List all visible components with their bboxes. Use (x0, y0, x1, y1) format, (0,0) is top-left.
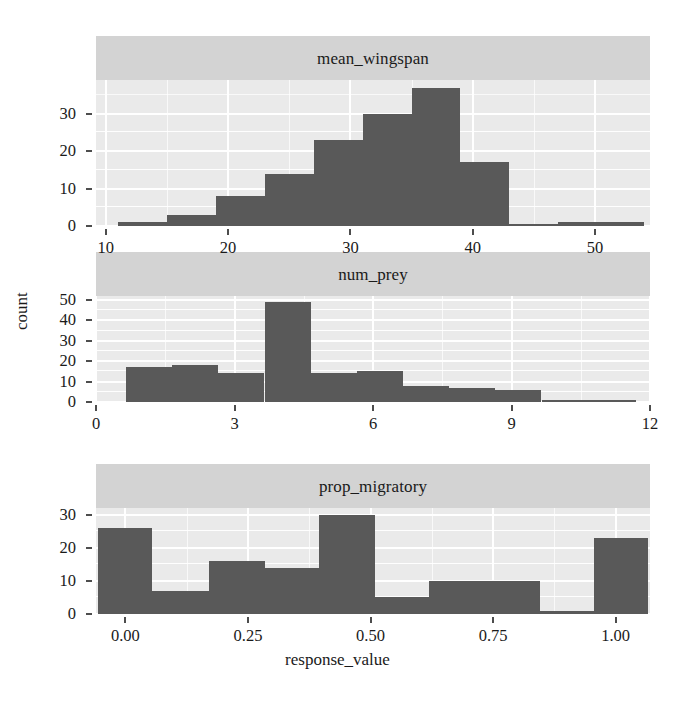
y-axis-tick-label: 40 (30, 312, 76, 329)
histogram-bar (486, 581, 540, 614)
histogram-bars-2 (96, 508, 650, 614)
plot-area-2 (96, 508, 650, 614)
histogram-bar (216, 196, 265, 226)
y-axis-tick-label: 20 (30, 143, 76, 160)
x-axis-tick-mark (370, 617, 372, 623)
histogram-bar (265, 568, 319, 614)
facet-panel-mean-wingspan: mean_wingspan (0, 36, 675, 226)
x-axis-tick-mark (372, 405, 374, 411)
y-axis-tick-mark (86, 360, 92, 362)
histogram-bar (495, 390, 541, 402)
y-axis-tick-mark (86, 381, 92, 383)
x-axis-tick-label: 6 (369, 416, 377, 433)
facet-panel-num-prey: num_prey (0, 252, 675, 402)
histogram-bar (311, 373, 357, 402)
y-axis-title: count (12, 292, 32, 330)
x-axis-tick-mark (511, 405, 513, 411)
facet-strip-header-2: prop_migratory (96, 464, 650, 508)
x-axis-tick-mark (124, 617, 126, 623)
histogram-bar (209, 561, 265, 614)
y-axis-tick-mark (86, 401, 92, 403)
x-axis-tick-label: 0.50 (356, 628, 385, 645)
x-axis-tick-mark (105, 229, 107, 235)
x-axis-tick-mark (247, 617, 249, 623)
y-axis-tick-label: 10 (30, 573, 76, 590)
facet-title-0: mean_wingspan (317, 50, 429, 67)
histogram-bar (314, 140, 363, 226)
y-axis-tick-label: 10 (30, 181, 76, 198)
histogram-bar (265, 174, 314, 226)
x-axis-tick-label: 1.00 (601, 628, 630, 645)
x-axis-tick-mark (594, 229, 596, 235)
y-axis-tick-mark (86, 225, 92, 227)
histogram-bar (429, 581, 485, 614)
x-axis-tick-mark (472, 229, 474, 235)
y-axis-tick-mark (86, 113, 92, 115)
histogram-bar (218, 373, 264, 402)
histogram-bar (265, 302, 311, 402)
histogram-bar (558, 222, 607, 226)
x-axis-tick-label: 50 (587, 240, 604, 257)
x-axis-tick-label: 30 (342, 240, 359, 257)
y-axis-tick-mark (86, 514, 92, 516)
facet-strip-header-1: num_prey (96, 252, 650, 296)
histogram-bar (118, 222, 167, 226)
plot-area-1 (96, 296, 650, 402)
histogram-bar (167, 215, 216, 226)
y-axis-tick-mark (86, 580, 92, 582)
facet-strip-header-0: mean_wingspan (96, 36, 650, 80)
histogram-bar (126, 367, 172, 402)
x-axis-tick-mark (95, 405, 97, 411)
histogram-bar (594, 538, 648, 614)
plot-area-0 (96, 80, 650, 226)
x-axis-tick-label: 0.00 (111, 628, 140, 645)
histogram-bars-0 (96, 80, 650, 226)
histogram-figure: mean_wingspan num_prey prop_migratory co… (0, 0, 675, 711)
y-axis-tick-label: 10 (30, 374, 76, 391)
histogram-bar (152, 591, 208, 614)
x-axis-tick-mark (349, 229, 351, 235)
x-axis-tick-label: 0.75 (479, 628, 508, 645)
histogram-bar (357, 371, 403, 402)
histogram-bar (542, 400, 588, 402)
histogram-bar (449, 388, 495, 402)
x-axis-tick-label: 20 (220, 240, 237, 257)
y-axis-tick-label: 0 (30, 218, 76, 235)
histogram-bar (172, 365, 218, 402)
x-axis-tick-label: 0 (92, 416, 100, 433)
x-axis-tick-mark (649, 405, 651, 411)
histogram-bar (98, 528, 152, 614)
x-axis-tick-label: 3 (230, 416, 238, 433)
y-axis-tick-label: 0 (30, 394, 76, 411)
x-axis-tick-mark (234, 405, 236, 411)
x-axis-tick-label: 40 (464, 240, 481, 257)
facet-panel-prop-migratory: prop_migratory (0, 464, 675, 614)
x-axis-tick-mark (492, 617, 494, 623)
x-axis-title: response_value (0, 650, 675, 670)
histogram-bar (403, 386, 449, 402)
histogram-bar (509, 224, 558, 226)
y-axis-tick-mark (86, 150, 92, 152)
histogram-bar (607, 222, 644, 226)
y-axis-tick-mark (86, 188, 92, 190)
histogram-bar (375, 597, 429, 614)
histogram-bar (363, 114, 412, 226)
histogram-bar (319, 515, 375, 614)
x-axis-tick-mark (227, 229, 229, 235)
y-axis-tick-label: 30 (30, 507, 76, 524)
y-axis-tick-mark (86, 299, 92, 301)
histogram-bar (412, 88, 461, 227)
y-axis-tick-label: 30 (30, 106, 76, 123)
histogram-bar (540, 611, 594, 614)
x-axis-tick-label: 10 (98, 240, 115, 257)
y-axis-tick-label: 0 (30, 606, 76, 623)
x-axis-tick-label: 12 (642, 416, 659, 433)
x-axis-tick-label: 9 (507, 416, 515, 433)
y-axis-tick-mark (86, 547, 92, 549)
x-axis-tick-mark (615, 617, 617, 623)
facet-title-1: num_prey (338, 266, 408, 283)
y-axis-tick-label: 30 (30, 333, 76, 350)
y-axis-tick-label: 20 (30, 353, 76, 370)
y-axis-tick-mark (86, 613, 92, 615)
y-axis-tick-mark (86, 319, 92, 321)
